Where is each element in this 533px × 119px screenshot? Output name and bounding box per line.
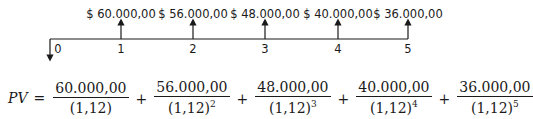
exponent: 2 — [210, 99, 216, 109]
plus-sign: + — [136, 91, 148, 107]
period-4: 4 — [334, 42, 341, 56]
cash-flow-2: $ 56.000,00 — [158, 7, 228, 21]
term-5: 36.000,00 (1,12)5 — [457, 79, 532, 116]
exponent: 4 — [412, 99, 418, 109]
term-3: 48.000,00 (1,12)3 — [255, 79, 330, 116]
cash-flow-1: $ 60.000,00 — [86, 7, 156, 21]
period-1: 1 — [117, 42, 124, 56]
pv-symbol: PV — [8, 90, 28, 106]
denominator: (1,12)4 — [370, 97, 418, 116]
term-4: 40.000,00 (1,12)4 — [356, 79, 431, 116]
plus-sign: + — [439, 91, 451, 107]
cash-flow-5: $ 36.000,00 — [373, 7, 443, 21]
exponent: 5 — [513, 99, 519, 109]
denominator: (1,12)3 — [269, 97, 317, 116]
term-2: 56.000,00 (1,12)2 — [154, 79, 229, 116]
equals-sign: = — [34, 90, 46, 106]
cash-flow-timeline: $ 60.000,00 $ 56.000,00 $ 48.000,00 $ 40… — [0, 0, 451, 70]
period-0: 0 — [54, 42, 61, 56]
pv-formula: PV = 60.000,00 (1,12) + 56.000,00 (1,12)… — [8, 79, 533, 116]
exponent: 3 — [311, 99, 317, 109]
cash-flow-3: $ 48.000,00 — [230, 7, 300, 21]
period-5: 5 — [404, 42, 411, 56]
numerator: 48.000,00 — [255, 79, 330, 97]
numerator: 40.000,00 — [356, 79, 431, 97]
numerator: 56.000,00 — [154, 79, 229, 97]
cash-flow-4: $ 40.000,00 — [303, 7, 373, 21]
term-1: 60.000,00 (1,12) — [53, 80, 128, 116]
numerator: 36.000,00 — [457, 79, 532, 97]
denominator: (1,12)5 — [471, 97, 519, 116]
plus-sign: + — [237, 91, 249, 107]
period-3: 3 — [261, 42, 268, 56]
plus-sign: + — [338, 91, 350, 107]
denominator: (1,12)2 — [168, 97, 216, 116]
numerator: 60.000,00 — [53, 80, 128, 98]
denominator: (1,12) — [70, 98, 112, 116]
period-2: 2 — [189, 42, 196, 56]
